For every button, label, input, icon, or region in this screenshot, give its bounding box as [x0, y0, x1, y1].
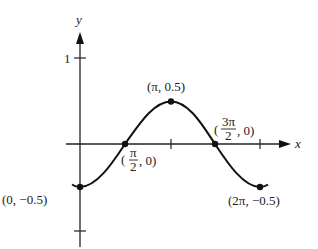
x-axis-arrow-icon: [279, 140, 291, 148]
svg-text:(: (: [214, 122, 218, 137]
svg-text:, 0): , 0): [139, 153, 156, 168]
svg-text:π: π: [130, 145, 137, 160]
x-axis-label: x: [294, 136, 301, 151]
point-2pi: [257, 184, 263, 190]
y-tick-label-1: 1: [64, 51, 71, 66]
cosine-graph: y 1 x (0, −0.5) (π, 0.5) (2π, −0.5) ( π …: [0, 0, 318, 249]
graph-svg: y 1 x (0, −0.5) (π, 0.5) (2π, −0.5) ( π …: [0, 0, 318, 249]
y-axis-label: y: [74, 12, 82, 27]
point-3pi-over-2: [212, 141, 218, 147]
svg-text:, 0): , 0): [237, 123, 254, 138]
label-point-3pi-over-2: ( 3π 2 , 0): [214, 114, 254, 143]
point-0: [77, 184, 83, 190]
y-axis-arrow-icon: [76, 32, 84, 44]
label-point-pi: (π, 0.5): [147, 79, 185, 94]
svg-text:2: 2: [130, 159, 137, 174]
svg-text:3π: 3π: [222, 114, 236, 129]
svg-text:2: 2: [225, 128, 232, 143]
point-pi-over-2: [122, 141, 128, 147]
label-point-0: (0, −0.5): [2, 192, 47, 207]
label-point-2pi: (2π, −0.5): [228, 193, 280, 208]
svg-text:(: (: [121, 152, 125, 167]
point-pi: [168, 98, 174, 104]
label-point-pi-over-2: ( π 2 , 0): [121, 145, 156, 174]
